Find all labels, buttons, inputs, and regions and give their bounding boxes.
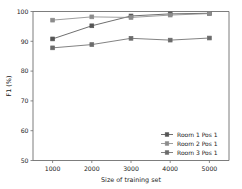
data-point [208,12,212,16]
x-tick-label-5000: 5000 [202,165,218,172]
x-tick-label-2000: 2000 [84,165,100,172]
data-point [51,46,55,50]
x-tick-label-4000: 4000 [162,165,178,172]
chart-figure: 100 90 80 70 60 50 1000 2000 3000 4000 5… [0,0,242,189]
legend-label-room-1: Room 1 Pos 1 [177,131,218,138]
y-tick-label-70: 70 [21,97,29,104]
data-point [90,15,94,19]
y-tick-label-60: 60 [21,127,29,134]
data-point [90,24,94,28]
data-point [129,36,133,40]
legend-marker-room-2 [165,142,169,146]
legend-marker-room-3 [165,151,169,155]
data-point [168,13,172,17]
legend-marker-room-1 [165,133,169,137]
legend-label-room-3: Room 3 Pos 1 [177,149,218,156]
data-point [208,36,212,40]
y-tick-label-90: 90 [21,38,29,45]
data-point [129,16,133,20]
plot-background [33,12,229,161]
data-point [90,43,94,47]
y-tick-label-100: 100 [17,8,29,15]
x-tick-label-1000: 1000 [45,165,61,172]
y-tick-label-50: 50 [21,157,29,164]
data-point [168,38,172,42]
data-point [51,37,55,41]
x-axis-title: Size of training set [101,176,161,184]
x-tick-label-3000: 3000 [123,165,139,172]
y-tick-label-80: 80 [21,67,29,74]
y-axis-title: F1 (%) [5,76,13,97]
data-point [51,18,55,22]
line-chart-canvas: 100 90 80 70 60 50 1000 2000 3000 4000 5… [0,0,242,189]
legend-label-room-2: Room 2 Pos 1 [177,140,218,147]
